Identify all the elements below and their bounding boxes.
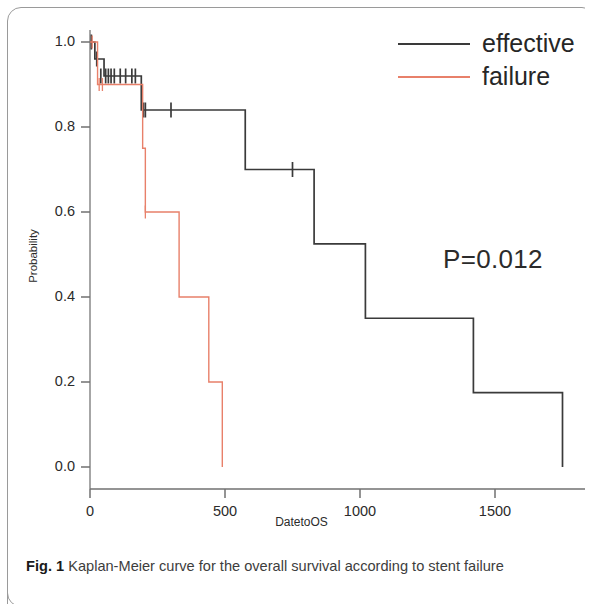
pvalue-annotation: P=0.012 bbox=[443, 244, 543, 275]
figure-container: 1.00.80.60.40.20.0 050010001500 Probabil… bbox=[0, 0, 603, 613]
plot-area: 1.00.80.60.40.20.0 050010001500 Probabil… bbox=[0, 0, 603, 545]
chart-legend: effective failure bbox=[398, 27, 598, 93]
frame-edge-mask-bottom bbox=[0, 604, 603, 613]
caption-divider bbox=[7, 548, 8, 608]
y-axis-tick-marks bbox=[81, 42, 90, 467]
y-axis-tick-label: 0.0 bbox=[41, 458, 75, 474]
caption-body-text: Kaplan-Meier curve for the overall survi… bbox=[68, 558, 504, 574]
series-failure-line bbox=[90, 36, 222, 468]
legend-line-swatch-effective bbox=[398, 43, 470, 45]
legend-item-failure: failure bbox=[398, 60, 598, 93]
y-axis-tick-label: 0.6 bbox=[41, 203, 75, 219]
y-axis-tick-label: 0.8 bbox=[41, 118, 75, 134]
legend-label-failure: failure bbox=[482, 64, 550, 89]
legend-item-effective: effective bbox=[398, 27, 598, 60]
y-axis-tick-label: 0.2 bbox=[41, 373, 75, 389]
caption-figure-number: Fig. 1 bbox=[26, 558, 64, 574]
survival-step-line-failure bbox=[90, 42, 222, 467]
frame-edge-mask-right bbox=[585, 0, 603, 613]
figure-caption: Fig. 1 Kaplan-Meier curve for the overal… bbox=[26, 556, 571, 577]
x-axis-tick-marks bbox=[90, 489, 495, 498]
y-axis-tick-label: 1.0 bbox=[41, 33, 75, 49]
legend-label-effective: effective bbox=[482, 31, 575, 56]
legend-line-swatch-failure bbox=[398, 76, 470, 78]
x-axis-title: DatetoOS bbox=[0, 515, 603, 529]
y-axis-title: Probability bbox=[27, 206, 39, 306]
y-axis-tick-label: 0.4 bbox=[41, 288, 75, 304]
